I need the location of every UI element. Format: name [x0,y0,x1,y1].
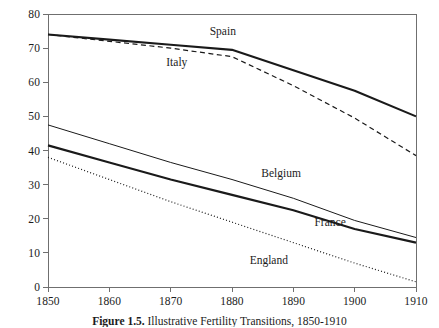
y-tick-label: 40 [8,145,40,157]
x-tick-label: 1860 [98,295,121,307]
y-tick-label: 20 [8,213,40,225]
y-tick-label: 10 [8,247,40,259]
series-label-belgium: Belgium [261,167,301,179]
series-line-belgium [48,125,416,238]
figure-caption-number: Figure 1.5. [92,315,145,327]
figure-container: 80706050403020100 1850186018701880189019… [0,0,439,328]
x-tick-label: 1870 [159,295,182,307]
y-tick-label: 80 [8,8,40,20]
series-line-italy [48,34,416,155]
x-tick-label: 1850 [36,295,59,307]
y-tick-label: 60 [8,76,40,88]
series-label-england: England [250,254,288,266]
y-tick-label: 70 [8,42,40,54]
chart-axes [43,14,416,292]
figure-caption-text: Illustrative Fertility Transitions, 1850… [148,315,347,327]
chart-series [48,34,416,281]
series-label-italy: Italy [166,56,187,68]
x-tick-label: 1880 [220,295,243,307]
figure-caption: Figure 1.5. Illustrative Fertility Trans… [0,315,439,327]
y-tick-label: 0 [8,281,40,293]
series-line-france [48,145,416,242]
series-label-spain: Spain [210,25,236,37]
y-tick-label: 30 [8,179,40,191]
y-tick-label: 50 [8,110,40,122]
series-line-spain [48,34,416,116]
line-chart-plot [0,0,439,328]
x-tick-label: 1910 [404,295,427,307]
series-line-england [48,157,416,282]
series-label-france: France [314,216,345,228]
x-tick-label: 1890 [282,295,305,307]
x-tick-label: 1900 [343,295,366,307]
